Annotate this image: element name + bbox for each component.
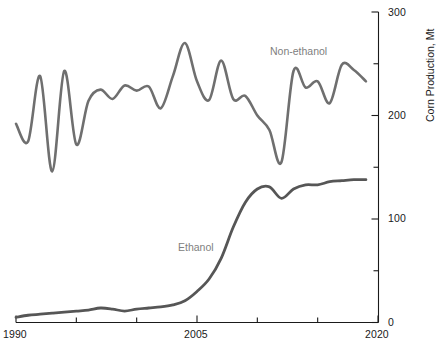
x-tick-label-2005: 2005	[184, 328, 208, 340]
series-line-non-ethanol	[16, 43, 366, 171]
x-tick-label-1990: 1990	[3, 328, 27, 340]
y-tick-label-300: 300	[388, 6, 406, 18]
y-axis-ticks	[372, 12, 379, 323]
x-tick-label-2020: 2020	[365, 328, 389, 340]
y-tick-label-200: 200	[388, 109, 406, 121]
x-axis-ticks	[16, 316, 378, 323]
series-label-non-ethanol: Non-ethanol	[270, 45, 327, 57]
y-tick-label-0: 0	[388, 316, 394, 328]
y-tick-label-100: 100	[388, 212, 406, 224]
y-axis-title: Corn Production, Mt	[424, 29, 436, 122]
series-label-ethanol: Ethanol	[178, 241, 214, 253]
